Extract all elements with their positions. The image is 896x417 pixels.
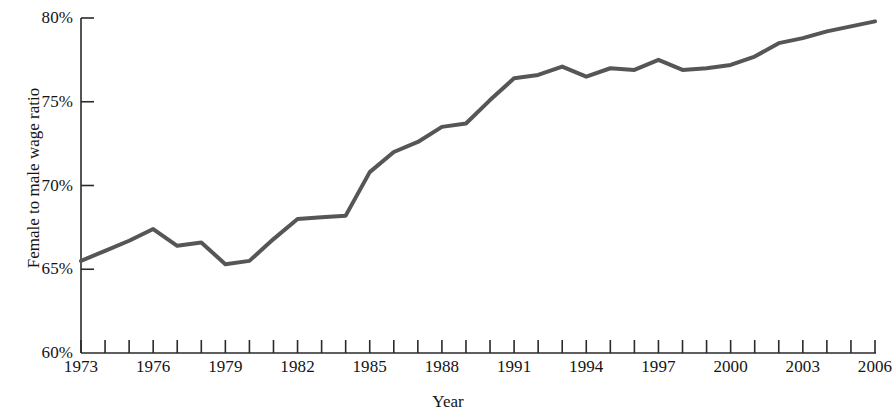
- x-tick-label: 1982: [268, 358, 328, 375]
- x-tick-label: 1979: [195, 358, 255, 375]
- x-tick-label: 1991: [484, 358, 544, 375]
- line-chart: 60%65%70%75%80% 197319761979198219851988…: [0, 0, 896, 417]
- x-tick-label: 1976: [123, 358, 183, 375]
- y-tick-label: 80%: [13, 9, 73, 26]
- x-tick-label: 2003: [773, 358, 833, 375]
- x-axis-title: Year: [0, 392, 896, 412]
- x-tick-label: 1997: [628, 358, 688, 375]
- x-tick-marks: [81, 340, 875, 353]
- y-tick-marks: [81, 18, 94, 269]
- x-tick-label: 1973: [51, 358, 111, 375]
- x-tick-label: 1985: [340, 358, 400, 375]
- plot-area: [0, 0, 896, 417]
- x-tick-label: 1988: [412, 358, 472, 375]
- x-tick-label: 2000: [701, 358, 761, 375]
- data-series-line: [81, 21, 875, 264]
- x-tick-label: 1994: [556, 358, 616, 375]
- y-axis-title: Female to male wage ratio: [24, 48, 44, 308]
- x-tick-label: 2006: [845, 358, 896, 375]
- axis-lines: [81, 18, 876, 353]
